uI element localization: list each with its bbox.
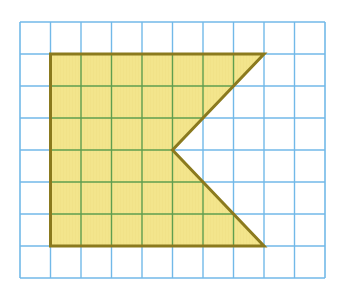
- figure-stage: [0, 0, 338, 296]
- grid-polygon-figure: [0, 0, 338, 296]
